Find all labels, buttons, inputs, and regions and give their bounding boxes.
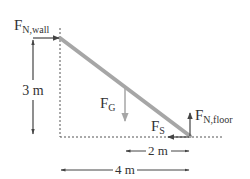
friction-force-label: FS: [151, 118, 165, 136]
normal-force-wall-label: FN,wall: [14, 17, 50, 35]
gravity-force-label: FG: [100, 95, 116, 113]
half-width-dimension-label: 2 m: [148, 143, 168, 158]
ladder-free-body-diagram: FN,wall 3 m FG FS FN,floor 2 m 4 m: [0, 0, 250, 179]
normal-force-floor-label: FN,floor: [195, 107, 233, 125]
height-dimension-label: 3 m: [22, 83, 44, 98]
width-dimension-label: 4 m: [115, 162, 135, 177]
